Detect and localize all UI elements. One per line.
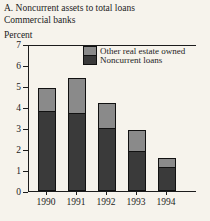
- x-axis-label-1994: 1994: [150, 197, 182, 207]
- y-tick-label-1: 1: [0, 166, 21, 177]
- y-tick-label-5: 5: [0, 82, 21, 93]
- segment-other-real-estate-1993: [129, 131, 145, 152]
- segment-noncurrent-loans-1992: [99, 129, 115, 191]
- x-axis-label-1991: 1991: [60, 197, 92, 207]
- chart-subtitle: Commercial banks: [4, 15, 76, 25]
- legend: Other real estate owned Noncurrent loans: [83, 46, 185, 64]
- y-tick-label-2: 2: [0, 145, 21, 156]
- segment-other-real-estate-1991: [69, 79, 85, 114]
- legend-swatch-noncurrent-loans: [83, 55, 97, 65]
- x-tick-mark: [166, 192, 167, 195]
- x-tick-mark: [136, 192, 137, 195]
- segment-other-real-estate-1994: [159, 159, 175, 168]
- bar-1991: [68, 78, 86, 191]
- figure-panel-a: A. Noncurrent assets to total loans Comm…: [0, 0, 210, 221]
- segment-noncurrent-loans-1990: [39, 112, 55, 190]
- segment-noncurrent-loans-1991: [69, 114, 85, 190]
- chart-title: A. Noncurrent assets to total loans: [4, 3, 135, 13]
- bar-1992: [98, 103, 116, 191]
- y-tick-mark: [23, 192, 28, 193]
- y-tick-label-4: 4: [0, 103, 21, 114]
- y-tick-label-3: 3: [0, 124, 21, 135]
- y-tick-label-7: 7: [0, 40, 21, 51]
- legend-label-noncurrent-loans: Noncurrent loans: [100, 55, 162, 65]
- x-axis-label-1992: 1992: [90, 197, 122, 207]
- bar-1994: [158, 158, 176, 191]
- y-tick-label-0: 0: [0, 187, 21, 198]
- plot-area: [28, 45, 196, 192]
- x-axis-label-1990: 1990: [30, 197, 62, 207]
- x-tick-mark: [76, 192, 77, 195]
- bar-1990: [38, 88, 56, 191]
- legend-item-noncurrent-loans: Noncurrent loans: [83, 55, 185, 64]
- segment-other-real-estate-1992: [99, 104, 115, 129]
- segment-other-real-estate-1990: [39, 89, 55, 112]
- bar-1993: [128, 130, 146, 191]
- y-axis-unit-label: Percent: [4, 30, 33, 40]
- segment-noncurrent-loans-1994: [159, 168, 175, 190]
- x-tick-mark: [46, 192, 47, 195]
- segment-noncurrent-loans-1993: [129, 152, 145, 190]
- y-tick-label-6: 6: [0, 61, 21, 72]
- x-tick-mark: [106, 192, 107, 195]
- x-axis-label-1993: 1993: [120, 197, 152, 207]
